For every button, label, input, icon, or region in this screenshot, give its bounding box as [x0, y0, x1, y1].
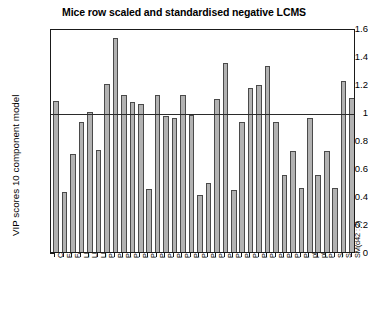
- bar: [223, 63, 229, 252]
- bar: [273, 122, 279, 252]
- plot-area: [50, 29, 355, 253]
- x-tick-mark: [266, 253, 267, 257]
- x-tick-mark: [97, 253, 98, 257]
- bar: [332, 188, 338, 252]
- bar: [62, 192, 68, 252]
- bar: [282, 175, 288, 252]
- x-tick-mark: [139, 253, 140, 257]
- x-tick-mark: [207, 253, 208, 257]
- x-tick-mark: [351, 253, 352, 257]
- bar: [53, 101, 59, 252]
- bar: [79, 122, 85, 252]
- bar: [214, 99, 220, 252]
- bar: [146, 189, 152, 252]
- x-tick-mark: [249, 253, 250, 257]
- x-tick-mark: [283, 253, 284, 257]
- x-tick-mark: [88, 253, 89, 257]
- bar: [206, 183, 212, 252]
- chart-figure: Mice row scaled and standardised negativ…: [0, 0, 368, 320]
- bar: [315, 175, 321, 252]
- x-tick-mark: [317, 253, 318, 257]
- y-axis-label: VIP scores 10 component model: [10, 95, 21, 236]
- bar: [265, 66, 271, 252]
- x-tick-mark: [80, 253, 81, 257]
- x-tick-mark: [122, 253, 123, 257]
- x-tick-mark: [190, 253, 191, 257]
- x-tick-mark: [232, 253, 233, 257]
- bar: [299, 188, 305, 252]
- bar: [113, 38, 119, 252]
- x-tick-mark: [156, 253, 157, 257]
- bar: [189, 115, 195, 252]
- bar: [341, 81, 347, 252]
- bar: [70, 154, 76, 252]
- bar: [324, 151, 330, 252]
- bar-series: [51, 30, 354, 252]
- x-tick-mark: [241, 253, 242, 257]
- x-tick-mark: [173, 253, 174, 257]
- bar: [231, 190, 237, 252]
- bar: [349, 98, 355, 252]
- x-tick-mark: [300, 253, 301, 257]
- x-tick-mark: [334, 253, 335, 257]
- x-tick-mark: [114, 253, 115, 257]
- bar: [87, 112, 93, 252]
- bar: [197, 195, 203, 252]
- x-tick-mark: [258, 253, 259, 257]
- x-tick-mark: [275, 253, 276, 257]
- bar: [239, 122, 245, 252]
- bar: [290, 151, 296, 252]
- x-tick-mark: [63, 253, 64, 257]
- x-tick-mark: [105, 253, 106, 257]
- bar: [172, 118, 178, 252]
- x-tick-mark: [224, 253, 225, 257]
- bar: [180, 95, 186, 252]
- bar: [130, 102, 136, 252]
- bar: [163, 116, 169, 252]
- bar: [138, 104, 144, 252]
- bar: [256, 85, 262, 252]
- bar: [307, 118, 313, 252]
- bar: [248, 88, 254, 252]
- bar: [121, 95, 127, 252]
- page-title: Mice row scaled and standardised negativ…: [0, 6, 368, 18]
- bar: [155, 95, 161, 252]
- bar: [104, 84, 110, 252]
- bar: [96, 150, 102, 252]
